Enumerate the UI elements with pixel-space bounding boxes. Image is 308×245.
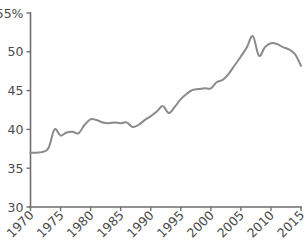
x-axis-tick-label: 1975 bbox=[34, 208, 67, 241]
x-axis-tick-group: 1970197519801985199019952000200520102015 bbox=[4, 207, 308, 241]
x-axis-tick-label: 1980 bbox=[64, 207, 97, 240]
chart-canvas: 303540455055% 19701975198019851990199520… bbox=[0, 0, 308, 245]
x-axis-tick-label: 2015 bbox=[274, 208, 307, 241]
line-chart: 303540455055% 19701975198019851990199520… bbox=[0, 0, 308, 245]
y-axis-tick-label: 55% bbox=[0, 6, 24, 21]
data-series-line bbox=[31, 36, 302, 153]
y-axis-tick-label: 40 bbox=[8, 122, 24, 137]
x-axis-tick-label: 2005 bbox=[214, 208, 247, 241]
y-axis-tick-label: 50 bbox=[8, 44, 24, 59]
y-axis-tick-group: 303540455055% bbox=[0, 6, 31, 215]
x-axis-tick-label: 1985 bbox=[94, 208, 127, 241]
x-axis-tick-label: 1990 bbox=[124, 207, 157, 240]
y-axis-tick-label: 45 bbox=[8, 83, 24, 98]
x-axis-tick-label: 1995 bbox=[154, 208, 187, 241]
y-axis-tick-label: 35 bbox=[8, 161, 24, 176]
x-axis-tick-label: 2000 bbox=[184, 207, 217, 240]
x-axis-tick-label: 2010 bbox=[244, 207, 277, 240]
